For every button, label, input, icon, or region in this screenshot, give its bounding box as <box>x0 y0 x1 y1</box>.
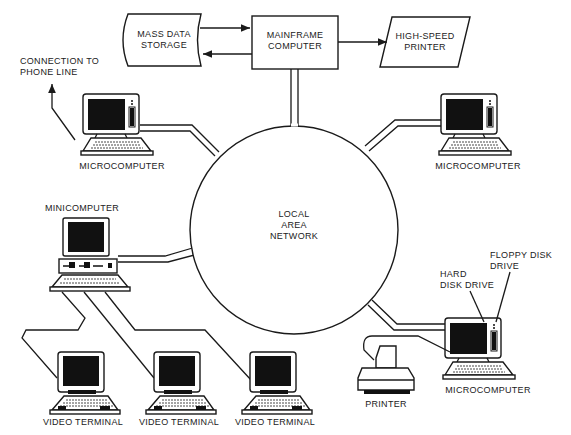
micro-bottom-label: MICROCOMPUTER <box>445 385 531 395</box>
hs-printer-label-2: PRINTER <box>404 42 446 52</box>
microcomputer-right <box>439 94 511 155</box>
hard-disk-label-1: HARD <box>440 269 467 279</box>
mass-storage-label-2: STORAGE <box>141 40 187 50</box>
printer-node: PRINTER <box>358 336 450 409</box>
terminal-2-label: VIDEO TERMINAL <box>139 417 219 427</box>
printer-label: PRINTER <box>365 399 407 409</box>
terminal-3-label: VIDEO TERMINAL <box>235 417 315 427</box>
minicomputer-label: MINICOMPUTER <box>45 203 119 213</box>
hard-disk-label-2: DISK DRIVE <box>440 280 494 290</box>
phone-label-2: PHONE LINE <box>20 67 78 77</box>
mainframe-computer-node: MAINFRAME COMPUTER <box>252 16 338 69</box>
floppy-disk-callout: FLOPPY DISK DRIVE <box>490 250 552 322</box>
micro-left-label: MICROCOMPUTER <box>79 161 165 171</box>
mass-data-storage-node: MASS DATA STORAGE <box>123 14 201 66</box>
mainframe-label: MAINFRAME <box>267 30 324 40</box>
minicomputer-node: MINICOMPUTER <box>45 203 130 291</box>
video-terminal-2 <box>146 352 216 414</box>
high-speed-printer-node: HIGH-SPEED PRINTER <box>380 17 470 67</box>
hs-printer-label: HIGH-SPEED <box>395 31 454 41</box>
floppy-label-2: DRIVE <box>490 261 519 271</box>
lan-label-2: AREA <box>281 220 307 230</box>
video-terminal-3 <box>242 352 312 414</box>
hard-disk-callout: HARD DISK DRIVE <box>440 269 494 322</box>
mainframe-label-2: COMPUTER <box>268 41 322 51</box>
lan-label-1: LOCAL <box>278 209 309 219</box>
lan-label-3: NETWORK <box>270 231 318 241</box>
micro-right-label: MICROCOMPUTER <box>435 161 521 171</box>
video-terminal-1 <box>50 352 120 414</box>
local-area-network-node: LOCAL AREA NETWORK <box>190 126 398 334</box>
terminal-1-label: VIDEO TERMINAL <box>43 417 123 427</box>
network-diagram: MASS DATA STORAGE MAINFRAME COMPUTER HIG… <box>0 0 571 435</box>
phone-label-1: CONNECTION TO <box>20 56 99 66</box>
floppy-label-1: FLOPPY DISK <box>490 250 552 260</box>
terminal-cables <box>22 292 251 380</box>
microcomputer-bottom <box>443 318 515 379</box>
mass-storage-label: MASS DATA <box>137 29 190 39</box>
